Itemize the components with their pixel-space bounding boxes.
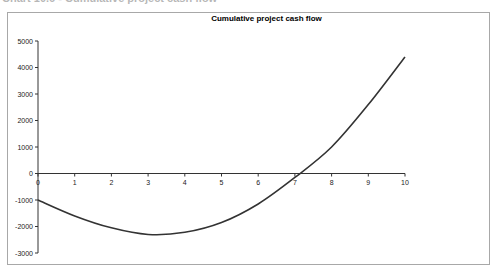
y-tick-label: 4000 [17,64,33,71]
x-axis: 012345678910 [36,174,409,186]
x-tick-label: 8 [330,179,334,186]
y-tick-label: -1000 [15,197,33,204]
x-tick-label: 0 [36,179,40,186]
x-tick-label: 4 [183,179,187,186]
x-tick-label: 10 [401,179,409,186]
cash-flow-line [38,57,405,235]
y-tick-label: 0 [29,170,33,177]
y-tick-label: -3000 [15,250,33,257]
x-tick-label: 7 [293,179,297,186]
x-tick-label: 3 [146,179,150,186]
x-tick-label: 9 [366,179,370,186]
y-tick-label: 3000 [17,91,33,98]
x-tick-label: 6 [256,179,260,186]
y-tick-label: 2000 [17,117,33,124]
y-tick-label: 5000 [17,38,33,45]
y-tick-label: -2000 [15,223,33,230]
y-axis: 500040003000200010000-1000-2000-3000 [15,38,38,257]
y-tick-label: 1000 [17,144,33,151]
x-tick-label: 5 [220,179,224,186]
line-chart: 500040003000200010000-1000-2000-3000 012… [0,0,493,269]
x-tick-label: 2 [109,179,113,186]
x-tick-label: 1 [73,179,77,186]
